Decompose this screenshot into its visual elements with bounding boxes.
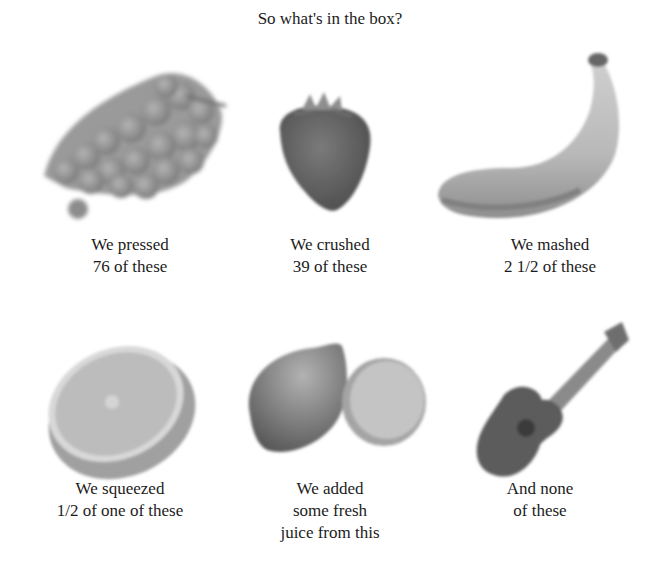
lemon-icon	[242, 340, 427, 460]
grapes-icon	[36, 66, 231, 221]
caption-banana: We mashed 2 1/2 of these	[450, 234, 650, 278]
caption-line: We squeezed	[20, 478, 220, 500]
caption-grapes: We pressed 76 of these	[40, 234, 220, 278]
page-title: So what's in the box?	[0, 8, 660, 30]
caption-line: And none	[460, 478, 620, 500]
caption-orange: We squeezed 1/2 of one of these	[20, 478, 220, 522]
caption-line: juice from this	[240, 522, 420, 544]
caption-line: We mashed	[450, 234, 650, 256]
caption-line: some fresh	[240, 500, 420, 522]
caption-lemon: We added some fresh juice from this	[240, 478, 420, 544]
caption-line: We added	[240, 478, 420, 500]
caption-strawberry: We crushed 39 of these	[240, 234, 420, 278]
caption-line: 39 of these	[240, 256, 420, 278]
caption-line: of these	[460, 500, 620, 522]
caption-line: We pressed	[40, 234, 220, 256]
caption-line: 2 1/2 of these	[450, 256, 650, 278]
caption-ukulele: And none of these	[460, 478, 620, 522]
ukulele-icon	[474, 320, 629, 485]
strawberry-icon	[272, 92, 382, 217]
orange-half-icon	[40, 334, 200, 479]
banana-icon	[430, 50, 630, 225]
caption-line: 76 of these	[40, 256, 220, 278]
caption-line: 1/2 of one of these	[20, 500, 220, 522]
caption-line: We crushed	[240, 234, 420, 256]
